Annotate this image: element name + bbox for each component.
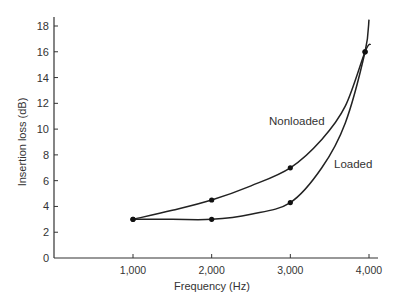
loaded-data-point: [209, 217, 214, 222]
x-tick-label: 4,000: [356, 264, 382, 276]
y-tick-label: 12: [37, 97, 49, 109]
y-tick-label: 10: [37, 123, 49, 135]
loaded-data-point: [288, 200, 293, 205]
nonloaded-label: Nonloaded: [269, 115, 325, 127]
x-axis-label: Frequency (Hz): [174, 280, 250, 292]
y-tick-label: 14: [37, 72, 49, 84]
y-tick-label: 6: [43, 175, 49, 187]
chart-container: 0246810121416181,0002,0003,0004,000Frequ…: [0, 0, 404, 306]
x-tick-label: 1,000: [120, 264, 146, 276]
y-tick-label: 16: [37, 46, 49, 58]
loaded-label: Loaded: [334, 158, 372, 170]
x-tick-label: 3,000: [277, 264, 303, 276]
loaded-data-point: [362, 49, 367, 54]
y-tick-label: 0: [43, 252, 49, 264]
y-tick-label: 4: [43, 200, 49, 212]
loaded-data-point: [130, 217, 135, 222]
loaded-curve: [133, 20, 369, 220]
nonloaded-data-point: [209, 197, 214, 202]
x-tick-label: 2,000: [199, 264, 225, 276]
y-tick-label: 18: [37, 20, 49, 32]
y-axis-label: Insertion loss (dB): [16, 98, 28, 187]
nonloaded-curve: [133, 44, 371, 219]
y-tick-label: 2: [43, 226, 49, 238]
insertion-loss-chart: 0246810121416181,0002,0003,0004,000Frequ…: [0, 0, 404, 306]
nonloaded-data-point: [288, 165, 293, 170]
y-tick-label: 8: [43, 149, 49, 161]
